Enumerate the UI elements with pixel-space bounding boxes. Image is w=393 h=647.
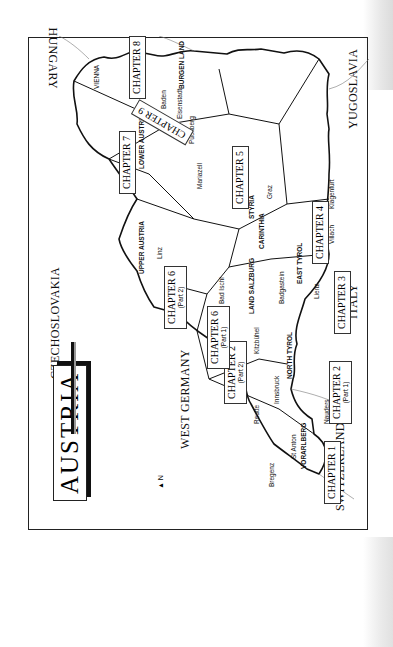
region-label: LOWER AUSTRIA — [139, 114, 146, 169]
chapter-box: CHAPTER 5 — [232, 146, 249, 209]
city-label: Villach — [329, 225, 336, 244]
country-label: HUNGARY — [47, 28, 59, 89]
page-edge-shadow — [363, 537, 393, 647]
chapter-box: CHAPTER 7 — [119, 131, 136, 194]
city-label: Linz — [157, 247, 164, 259]
chapter-box: CHAPTER 4 — [312, 201, 329, 264]
city-label: Mariazell — [197, 163, 204, 189]
chapter-box: CHAPTER 6(Part 2) — [164, 266, 187, 329]
chapter-box: CHAPTER 3 — [334, 271, 351, 334]
country-label: YUGOSLAVIA — [347, 49, 359, 129]
region-label: LAND SALZBURG — [249, 258, 256, 314]
city-label: Bregenz — [269, 463, 276, 487]
chapter-box: CHAPTER 1 — [324, 441, 341, 504]
city-label: Reutte — [254, 405, 261, 424]
region-label: NORTH TYROL — [287, 332, 294, 379]
city-label: Bad Ischl — [219, 277, 226, 304]
region-label: CARINTHIA — [259, 213, 266, 249]
city-label: VIENNA — [94, 65, 101, 89]
chapter-box: CHAPTER 2(Part 1) — [329, 361, 352, 424]
chapter-box: CHAPTER 8 — [129, 36, 146, 99]
city-label: Lienz — [314, 283, 321, 299]
region-label: EAST TYROL — [297, 243, 304, 284]
scale-bar — [59, 340, 89, 436]
city-label: Innsbruck — [274, 376, 281, 404]
region-label: UPPER AUSTRIA — [139, 221, 146, 274]
city-label: Klagenfurt — [329, 179, 336, 209]
city-label: St Anton — [291, 434, 298, 459]
north-arrow-icon: ▲ N — [157, 475, 164, 489]
country-label: WEST GERMANY — [179, 349, 191, 449]
region-label: BURGEN LAND — [179, 41, 186, 89]
chapter-box: CHAPTER 6(Part 1) — [207, 306, 230, 369]
region-label: VORARLBERG — [301, 423, 308, 469]
city-label: Kitzbühel — [254, 327, 261, 354]
city-label: Baden — [161, 90, 168, 109]
city-label: Badgastein — [279, 271, 286, 304]
city-label: Eisenstadt — [177, 89, 184, 119]
city-label: Graz — [267, 185, 274, 199]
austria-map: CZECHOSLOVAKIA HUNGARY YUGOSLAVIA ITALY … — [28, 37, 368, 530]
region-label: STYRIA — [249, 195, 256, 219]
